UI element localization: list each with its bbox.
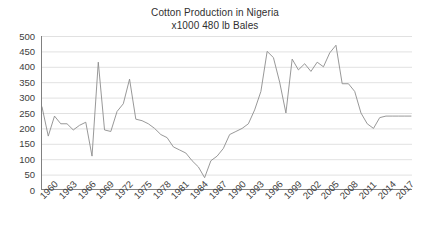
x-axis-tick-label: 1975	[132, 179, 153, 200]
x-axis-tick-label: 1966	[76, 179, 97, 200]
x-axis-tick-label: 1999	[282, 179, 303, 200]
x-axis-tick-label: 2005	[319, 179, 340, 200]
x-axis-tick-label: 1978	[151, 179, 172, 200]
x-axis-tick-label: 1996	[263, 179, 284, 200]
x-axis-tick-label: 1981	[169, 179, 190, 200]
x-axis-tick-label: 1993	[244, 179, 265, 200]
x-axis-tick-label: 1990	[226, 179, 247, 200]
x-axis-tick-label: 1987	[207, 179, 228, 200]
x-axis-tick-label: 1963	[57, 179, 78, 200]
x-axis-tick-label: 2002	[301, 179, 322, 200]
x-axis-tick-label: 2011	[357, 180, 378, 201]
x-axis-tick-label: 1984	[188, 179, 209, 200]
x-axis-tick-label: 1969	[94, 179, 115, 200]
x-axis-tick-label: 1972	[113, 179, 134, 200]
x-axis-tick-label: 2008	[338, 179, 359, 200]
chart-container: Cotton Production in Nigeria x1000 480 l…	[0, 0, 430, 231]
x-axis-tick-label: 1960	[38, 179, 59, 200]
x-axis-tick-label: 2014	[376, 179, 397, 200]
x-axis-tick-label: 2017	[394, 179, 415, 200]
x-axis-tick-labels: 1960196319661969197219751978198119841987…	[0, 0, 430, 231]
